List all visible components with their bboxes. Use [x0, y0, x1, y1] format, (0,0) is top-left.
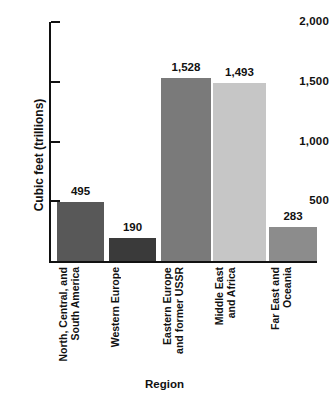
bar [213, 83, 266, 261]
bar [161, 78, 211, 261]
bar-value-label: 495 [57, 186, 104, 198]
x-axis-category-label: Far East and Oceania [269, 267, 317, 330]
bar-value-label: 190 [109, 222, 156, 234]
x-axis-line [49, 261, 317, 263]
plot-area [51, 22, 317, 261]
x-axis-category-label: Western Europe [109, 267, 156, 347]
x-axis-category-label: Middle East and Africa [213, 267, 266, 325]
bar [109, 238, 156, 261]
bar [269, 227, 317, 261]
bar-value-label: 1,493 [213, 67, 266, 79]
x-axis-title: Region [0, 378, 329, 390]
x-axis-category-label: Eastern Europe and former USSR [161, 267, 211, 354]
bar-chart: 5001,0001,5002,000 Cubic feet (trillions… [0, 0, 329, 407]
bar-value-label: 1,528 [161, 62, 211, 74]
y-axis-title: Cubic feet (trillions) [32, 80, 46, 230]
x-axis-category-label: North, Central, and South America [57, 267, 104, 362]
bar [57, 202, 104, 261]
bar-value-label: 283 [269, 211, 317, 223]
